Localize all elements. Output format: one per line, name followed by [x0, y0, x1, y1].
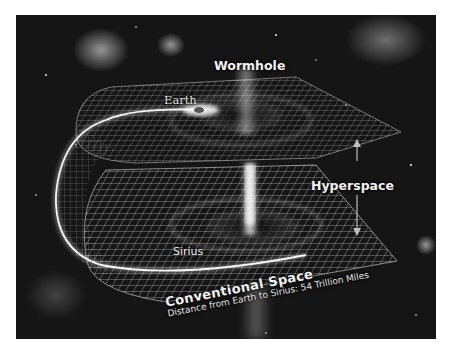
earth-marker — [194, 107, 204, 113]
earth-label: Earth — [164, 93, 197, 107]
sirius-label: Sirius — [173, 245, 203, 258]
hyperspace-label: Hyperspace — [311, 178, 394, 193]
wormhole-label: Wormhole — [214, 58, 285, 73]
wormhole-diagram: Wormhole Earth Hyperspace Sirius Convent… — [16, 15, 436, 339]
